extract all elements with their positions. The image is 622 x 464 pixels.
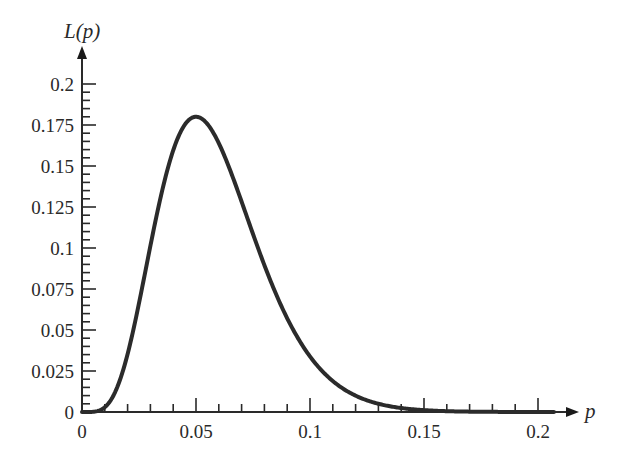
y-tick-label: 0: [65, 402, 75, 423]
y-tick-label: 0.1: [50, 238, 74, 259]
y-tick-label: 0.175: [31, 115, 74, 136]
x-axis-title: p: [583, 399, 596, 423]
y-axis-ticks: 00.0250.050.0750.10.1250.150.1750.2: [31, 74, 96, 423]
y-tick-label: 0.2: [50, 74, 74, 95]
likelihood-curve: [82, 117, 554, 412]
x-tick-label: 0.05: [179, 421, 212, 442]
x-axis-ticks: 00.050.10.150.2: [77, 398, 550, 442]
y-axis-title: L(p): [63, 19, 100, 43]
y-tick-label: 0.025: [31, 361, 74, 382]
x-tick-label: 0.15: [407, 421, 440, 442]
y-tick-label: 0.075: [31, 279, 74, 300]
x-tick-label: 0.2: [526, 421, 550, 442]
likelihood-chart: 00.0250.050.0750.10.1250.150.1750.2 00.0…: [0, 0, 622, 464]
y-tick-label: 0.05: [41, 320, 74, 341]
y-axis-arrow-icon: [77, 46, 87, 59]
y-tick-label: 0.125: [31, 197, 74, 218]
y-tick-label: 0.15: [41, 156, 74, 177]
x-tick-label: 0: [77, 421, 87, 442]
x-axis-arrow-icon: [566, 407, 579, 417]
x-tick-label: 0.1: [298, 421, 322, 442]
